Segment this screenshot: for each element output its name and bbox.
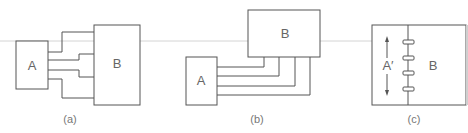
panel-b-box-b-label: B [281, 26, 290, 41]
panel-b-caption: (b) [250, 113, 263, 125]
wire-a-4 [48, 79, 94, 98]
panel-c-caption: (c) [408, 113, 421, 125]
panel-c-box-a-label: A′ [382, 58, 394, 73]
panel-c-box-b-label: B [429, 58, 438, 73]
wire-b-3 [217, 57, 295, 86]
panel-a: A B (a) [16, 25, 140, 125]
panel-a-caption: (a) [63, 113, 76, 125]
panel-a-box-a-label: A [28, 58, 37, 73]
panel-b: A B (b) [186, 10, 320, 125]
connector-tab-2 [403, 56, 414, 60]
wire-a-3 [48, 70, 94, 77]
connector-tab-4 [403, 87, 414, 91]
wire-a-2 [48, 54, 94, 60]
panel-a-wires [48, 32, 94, 98]
figure-canvas: A B (a) A B (b) [0, 0, 468, 133]
panel-c: A′ B (c) [372, 25, 468, 125]
connector-tab-3 [403, 71, 414, 75]
panel-a-box-b-label: B [113, 56, 122, 71]
panel-b-wires [217, 57, 310, 95]
panel-b-box-a-label: A [197, 73, 206, 88]
wire-a-1 [48, 32, 94, 52]
connector-tab-1 [403, 40, 414, 44]
wire-b-1 [217, 57, 264, 67]
